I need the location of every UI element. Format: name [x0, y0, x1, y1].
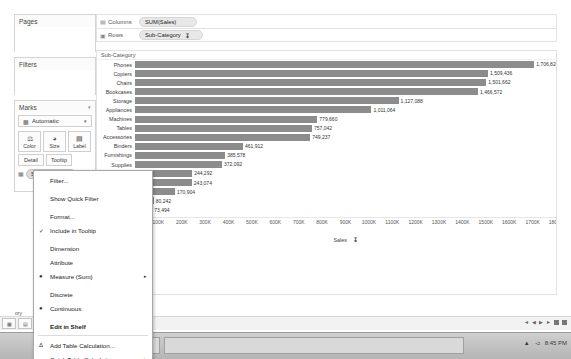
- tray-volume-icon[interactable]: ◅: [535, 339, 540, 346]
- filters-drop-zone[interactable]: [15, 70, 95, 98]
- mark-type-label: Automatic: [32, 118, 59, 124]
- shelf-area: ▤ Columns SUM(Sales) ▣ Rows Sub-Category…: [96, 14, 557, 42]
- bar[interactable]: [135, 97, 399, 104]
- sheet-tab-1[interactable]: ▩: [2, 318, 16, 329]
- taskbar-app-3[interactable]: [164, 337, 464, 354]
- bar-row[interactable]: Copiers1,509,436: [97, 69, 556, 78]
- menu-item-label: Attribute: [50, 259, 73, 266]
- bar[interactable]: [135, 79, 486, 86]
- marks-size-button[interactable]: ◕ Size: [43, 131, 66, 152]
- bar-track: 1,011,064: [135, 105, 556, 114]
- bar-value-label: 779,660: [319, 116, 337, 122]
- menu-item-continuous[interactable]: ●Continuous: [34, 301, 152, 315]
- sort-desc-icon[interactable]: ↧: [353, 237, 358, 243]
- bar[interactable]: [135, 88, 478, 95]
- bar[interactable]: [135, 143, 243, 150]
- rows-pill-sub-category[interactable]: Sub-Category ↧: [139, 30, 203, 40]
- marks-label-button[interactable]: ▤ Label: [68, 131, 91, 152]
- visualization-pane[interactable]: Sub-Category Phones1,706,824Copiers1,509…: [96, 50, 557, 295]
- x-axis-tick: 1200K: [408, 219, 422, 225]
- menu-item-label: Show Quick Filter: [50, 195, 98, 202]
- bar-row[interactable]: Labels80,242: [97, 196, 556, 205]
- bar-row[interactable]: Appliances1,011,064: [97, 105, 556, 114]
- bar-row[interactable]: Furnishings385,578: [97, 151, 556, 160]
- pages-drop-zone[interactable]: [15, 27, 95, 55]
- menu-item-label: Edit in Shelf: [50, 323, 86, 330]
- menu-item-add-table-calculation[interactable]: ΔAdd Table Calculation...: [34, 338, 152, 352]
- chevron-down-icon[interactable]: ▾: [84, 118, 87, 124]
- bar[interactable]: [135, 61, 534, 68]
- columns-shelf-label-wrap: ▤ Columns: [97, 18, 139, 25]
- bar-row-label: Copiers: [97, 71, 135, 77]
- pill-context-menu[interactable]: Filter...Show Quick FilterFormat...✓Incl…: [33, 170, 153, 359]
- bar-value-label: 80,242: [156, 198, 171, 204]
- marks-detail-button[interactable]: Detail: [18, 154, 44, 166]
- menu-item-include-in-tooltip[interactable]: ✓Include in Tooltip: [34, 223, 152, 237]
- marks-size-label: Size: [49, 143, 59, 149]
- columns-pill-sum-sales[interactable]: SUM(Sales): [139, 17, 197, 27]
- bar[interactable]: [135, 70, 488, 77]
- bar[interactable]: [135, 116, 317, 123]
- bar-track: 385,578: [135, 151, 556, 160]
- bar-row[interactable]: Fasteners73,494: [97, 206, 556, 215]
- bar-row[interactable]: Envelopes243,074: [97, 178, 556, 187]
- bar[interactable]: [135, 106, 371, 113]
- bar[interactable]: [135, 134, 310, 141]
- bar-row[interactable]: Binders461,912: [97, 142, 556, 151]
- bar[interactable]: [135, 125, 312, 132]
- bar-row[interactable]: Supplies372,092: [97, 160, 556, 169]
- pages-card-title: Pages: [15, 15, 95, 27]
- menu-item-quick-table-calculation[interactable]: Quick Table Calculation▸: [34, 352, 152, 359]
- nav-first-icon[interactable]: ◄: [524, 319, 529, 325]
- menu-item-attribute[interactable]: Attribute: [34, 255, 152, 269]
- filters-card[interactable]: Filters: [14, 57, 96, 95]
- rows-shelf[interactable]: ▣ Rows Sub-Category ↧: [96, 28, 557, 42]
- bar-row-label: Tables: [97, 125, 135, 131]
- marks-color-label: Color: [23, 143, 35, 149]
- radio-selected-icon: ●: [39, 273, 43, 279]
- marks-tooltip-button[interactable]: Tooltip: [46, 154, 72, 166]
- menu-item-measure-sum[interactable]: ●Measure (Sum)▸: [34, 269, 152, 283]
- mark-type-selector[interactable]: ▩ Automatic ▾: [18, 115, 92, 127]
- tray-network-icon[interactable]: ▲: [524, 340, 530, 346]
- bar-row[interactable]: Bookcases1,466,572: [97, 87, 556, 96]
- view-grid-icon[interactable]: [554, 320, 559, 325]
- menu-item-edit-in-shelf[interactable]: Edit in Shelf: [34, 319, 152, 333]
- menu-item-label: Filter...: [50, 177, 69, 184]
- bar[interactable]: [135, 152, 225, 159]
- bar-value-label: 461,912: [245, 143, 263, 149]
- bar[interactable]: [135, 161, 222, 168]
- menu-item-dimension[interactable]: Dimension: [34, 241, 152, 255]
- x-axis-tick: 1300K: [432, 219, 446, 225]
- x-axis-tick: 900K: [340, 219, 352, 225]
- menu-item-filter[interactable]: Filter...: [34, 173, 152, 187]
- marks-color-button[interactable]: ⚖ Color: [18, 131, 41, 152]
- pages-card[interactable]: Pages: [14, 14, 96, 52]
- bar-row[interactable]: Accessories749,237: [97, 133, 556, 142]
- bar-row[interactable]: Art170,904: [97, 187, 556, 196]
- nav-next-icon[interactable]: ▶: [539, 319, 543, 325]
- bar-value-label: 749,237: [312, 134, 330, 140]
- bar-row[interactable]: Storage1,127,088: [97, 96, 556, 105]
- bar-row[interactable]: Phones1,706,824: [97, 60, 556, 69]
- bar-row[interactable]: Paper244,292: [97, 169, 556, 178]
- nav-last-icon[interactable]: ►: [546, 319, 551, 325]
- x-axis-tick: 1000K: [362, 219, 376, 225]
- view-list-icon[interactable]: [562, 320, 567, 325]
- taskbar-clock[interactable]: 8:45 PM: [545, 340, 567, 346]
- sheet-tab-2[interactable]: ▤: [18, 318, 32, 329]
- bar-row[interactable]: Tables757,042: [97, 124, 556, 133]
- columns-shelf[interactable]: ▤ Columns SUM(Sales): [96, 14, 557, 28]
- sort-desc-icon[interactable]: ↧: [185, 32, 190, 39]
- nav-prev-icon[interactable]: ◀: [532, 319, 536, 325]
- bar-track: 1,466,572: [135, 87, 556, 96]
- bar-row[interactable]: Machines779,660: [97, 115, 556, 124]
- chevron-down-icon[interactable]: ▾: [88, 104, 91, 110]
- bar-row[interactable]: Chairs1,501,662: [97, 78, 556, 87]
- bar-row-label: Accessories: [97, 134, 135, 140]
- menu-item-format[interactable]: Format...: [34, 209, 152, 223]
- x-axis-tick: 1100K: [385, 219, 399, 225]
- x-axis-title-label: Sales: [334, 237, 348, 243]
- menu-item-discrete[interactable]: Discrete: [34, 287, 152, 301]
- menu-item-show-quick-filter[interactable]: Show Quick Filter: [34, 191, 152, 205]
